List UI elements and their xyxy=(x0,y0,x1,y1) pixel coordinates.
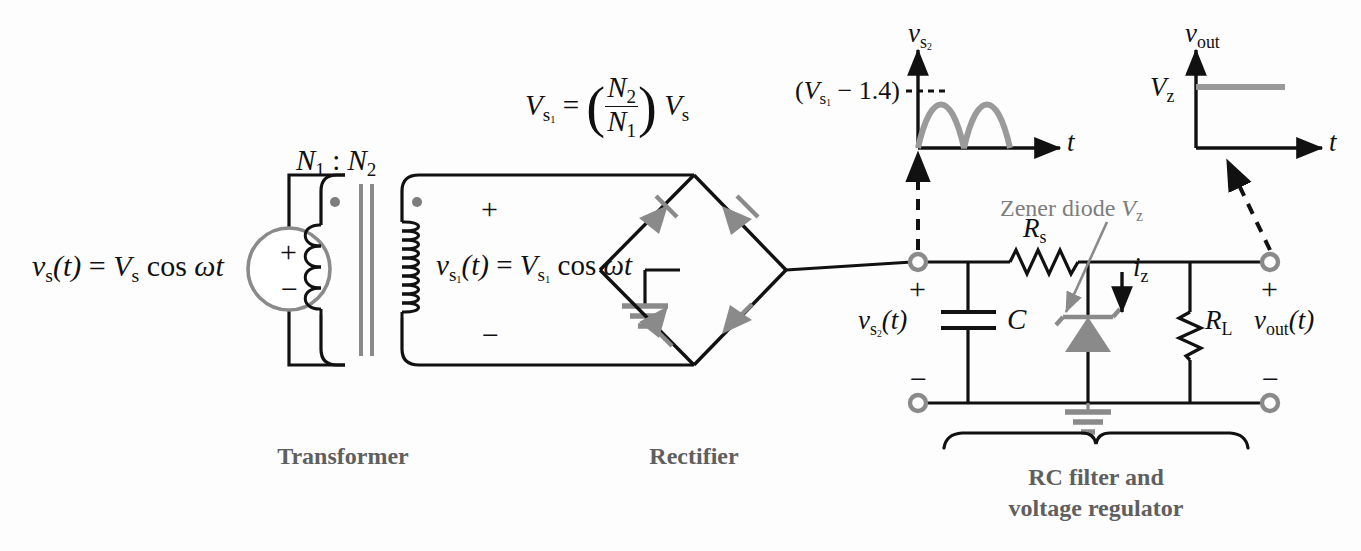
vs2-voltage-label: vs2(t) xyxy=(858,305,907,340)
circuit-diagram: vs(t) = Vs cos ωt + − N1 : N2 Transforme… xyxy=(0,0,1361,551)
zener-current-label: iz xyxy=(1133,252,1148,287)
transformer-secondary-coil xyxy=(402,222,419,318)
load-resistor-symbol xyxy=(1179,312,1201,360)
capacitor-symbol xyxy=(941,312,996,328)
diode-upper-left xyxy=(639,196,677,234)
terminal-vs2-minus xyxy=(910,395,926,411)
vs1-time-label: vs1(t) = Vs1 cos ωt xyxy=(436,249,632,286)
plot-vs2-peak-label: (Vs1 − 1.4) xyxy=(795,76,900,109)
vout-voltage-label: vout(t) xyxy=(1254,305,1314,340)
section-label-rectifier: Rectifier xyxy=(604,443,784,470)
vs1-formula: Vs1 = (N2N1) Vs xyxy=(525,74,689,142)
primary-dot-icon xyxy=(330,197,340,207)
plot-vout-level-label: Vz xyxy=(1150,72,1174,107)
bridge-output-lead xyxy=(786,262,912,270)
source-minus-sign: − xyxy=(281,272,298,306)
vs2-minus-sign: − xyxy=(910,362,927,396)
load-resistor-label: RL xyxy=(1205,305,1232,340)
source-equation: vs(t) = Vs cos ωt xyxy=(32,249,224,287)
transformer-core xyxy=(361,184,372,356)
vs1-minus-sign: − xyxy=(482,318,499,352)
filter-brace xyxy=(944,433,1248,448)
vs2-plus-sign: + xyxy=(909,272,926,306)
zener-annotation-label: Zener diode Vz xyxy=(1000,195,1143,225)
vs1-plus-sign: + xyxy=(481,192,498,226)
ground-icon-zener xyxy=(1065,403,1111,432)
terminal-vs2-plus xyxy=(910,254,926,270)
plot-vs2-x-label: t xyxy=(1067,127,1075,158)
plot-vs2-axes xyxy=(918,50,1060,148)
plot-vout-y-label: vout xyxy=(1185,18,1220,53)
section-label-transformer: Transformer xyxy=(253,443,433,470)
section-label-filter-line1: RC filter and xyxy=(996,464,1196,491)
capacitor-label: C xyxy=(1007,303,1026,336)
plot-vout-x-label: t xyxy=(1329,127,1337,158)
series-resistor-label: Rs xyxy=(1023,213,1046,248)
plot-vs2-trace xyxy=(918,105,1010,149)
terminal-vout-plus xyxy=(1262,254,1278,270)
series-resistor-symbol xyxy=(1010,250,1078,274)
section-label-filter-line2: voltage regulator xyxy=(996,495,1196,522)
plot-vs2-y-label: vs2 xyxy=(908,18,932,53)
diode-lower-right xyxy=(722,304,752,334)
vout-minus-sign: − xyxy=(1262,362,1279,396)
vout-plus-sign: + xyxy=(1261,272,1278,306)
source-plus-sign: + xyxy=(280,235,297,269)
zener-diode-symbol xyxy=(1056,309,1120,352)
callout-arrow-vout xyxy=(1227,160,1270,250)
secondary-center-tap xyxy=(645,270,680,305)
turns-ratio-label: N1 : N2 xyxy=(296,144,376,181)
diode-upper-right xyxy=(722,196,758,235)
secondary-dot-icon xyxy=(412,197,422,207)
terminal-vout-minus xyxy=(1262,395,1278,411)
plot-vout-axes xyxy=(1196,50,1322,148)
